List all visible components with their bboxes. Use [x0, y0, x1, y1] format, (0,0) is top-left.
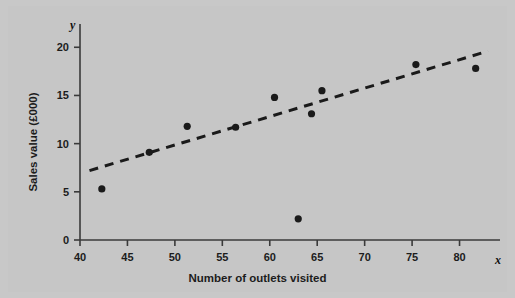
x-tick-label: 75 — [406, 251, 418, 263]
x-tick-label: 70 — [359, 251, 371, 263]
data-point — [318, 87, 325, 94]
y-axis-title: Sales value (£000) — [27, 62, 39, 222]
axes-group — [74, 24, 500, 246]
y-tick-label: 20 — [8, 41, 69, 53]
scatter-plot-svg — [8, 6, 507, 292]
x-tick-label: 55 — [216, 251, 228, 263]
x-tick-label: 65 — [311, 251, 323, 263]
plot-panel: 05101520404550556065707580 y x Sales val… — [8, 6, 507, 292]
data-point — [146, 149, 153, 156]
x-tick-label: 40 — [74, 251, 86, 263]
x-tick-label: 80 — [453, 251, 465, 263]
x-axis-title: Number of outlets visited — [0, 272, 515, 284]
data-point — [308, 110, 315, 117]
data-point — [98, 185, 105, 192]
x-tick-label: 50 — [169, 251, 181, 263]
y-axis-variable-label: y — [70, 18, 75, 33]
data-points-group — [98, 61, 479, 222]
y-tick-label: 0 — [8, 234, 69, 246]
data-point — [472, 65, 479, 72]
figure-container: 05101520404550556065707580 y x Sales val… — [0, 0, 515, 298]
data-point — [184, 123, 191, 130]
data-point — [412, 61, 419, 68]
x-tick-label: 45 — [121, 251, 133, 263]
data-point — [232, 124, 239, 131]
data-point — [271, 94, 278, 101]
x-axis-variable-label: x — [495, 253, 501, 268]
x-tick-label: 60 — [264, 251, 276, 263]
data-point — [295, 215, 302, 222]
